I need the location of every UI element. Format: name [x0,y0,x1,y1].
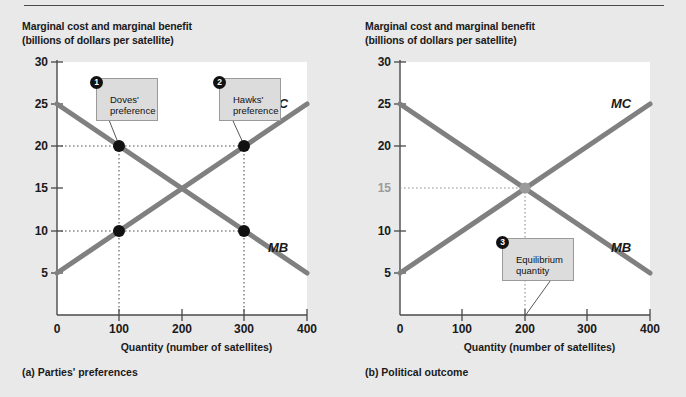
figure-container: Marginal cost and marginal benefit (bill… [0,0,686,397]
y-tick-b-15: 15 [365,181,391,195]
y-tick-b-5: 5 [365,266,391,280]
y-tick-a-20: 20 [22,139,48,153]
x-tick-b-200: 200 [505,322,545,336]
panel-caption-b: (b) Political outcome [365,366,468,378]
callout-doves-preference[interactable]: Doves' preference [96,78,158,121]
y-tick-a-15: 15 [22,181,48,195]
y-axis-title-a: Marginal cost and marginal benefit (bill… [22,20,192,47]
x-tick-b-100: 100 [442,322,482,336]
y-tick-a-5: 5 [22,266,48,280]
x-tick-b-0: 0 [380,322,420,336]
y-tick-a-30: 30 [22,55,48,69]
curve-label-a-mb: MB [268,240,288,255]
y-tick-b-20: 20 [365,139,391,153]
y-tick-b-10: 10 [365,224,391,238]
callout-badge-3: 3 [496,236,509,249]
x-tick-a-100: 100 [99,322,139,336]
panel-parties-preferences: Marginal cost and marginal benefit (bill… [0,0,343,397]
curve-label-b-mc: MC [611,96,631,111]
y-tick-a-10: 10 [22,224,48,238]
y-tick-b-25: 25 [365,97,391,111]
callout-hawks-preference[interactable]: Hawks' preference [219,78,281,121]
y-tick-b-30: 30 [365,55,391,69]
x-tick-b-300: 300 [567,322,607,336]
x-tick-a-300: 300 [224,322,264,336]
callout-equilibrium-quantity[interactable]: Equilibrium quantity [502,238,574,281]
x-axis-title-a: Quantity (number of satellites) [0,341,343,353]
x-axis-title-b: Quantity (number of satellites) [343,341,686,353]
x-tick-a-0: 0 [37,322,77,336]
x-tick-a-400: 400 [287,322,327,336]
callout-badge-2: 2 [213,76,226,89]
y-tick-a-25: 25 [22,97,48,111]
x-tick-b-400: 400 [630,322,670,336]
callout-equilibrium-text: Equilibrium quantity [516,254,563,277]
y-axis-title-b: Marginal cost and marginal benefit (bill… [365,20,535,47]
curve-label-b-mb: MB [611,240,631,255]
callout-badge-1: 1 [90,76,103,89]
x-tick-a-200: 200 [162,322,202,336]
panel-political-outcome: Marginal cost and marginal benefit (bill… [343,0,686,397]
panel-caption-a: (a) Parties' preferences [22,366,138,378]
callout-doves-text: Doves' preference [110,94,155,117]
callout-hawks-text: Hawks' preference [233,94,278,117]
